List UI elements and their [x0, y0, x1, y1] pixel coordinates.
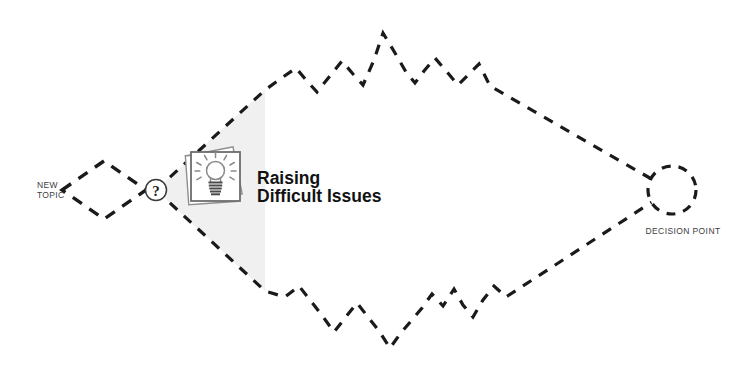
- lightbulb-cards-icon: [185, 147, 242, 205]
- new-topic-label-line2: TOPIC: [37, 190, 64, 200]
- new-topic-diamond: [62, 161, 146, 219]
- decision-point-circle: [648, 166, 696, 214]
- new-topic-label-line1: NEW: [37, 180, 58, 190]
- diagram-title-line1: Raising: [257, 168, 320, 188]
- question-marker-label: ?: [152, 183, 160, 199]
- diagram-title-line2: Difficult Issues: [257, 186, 382, 206]
- question-marker: ?: [146, 180, 167, 201]
- diagram-canvas: NEW TOPIC DECISION POINT ?: [0, 0, 738, 375]
- decision-point-label: DECISION POINT: [645, 226, 720, 236]
